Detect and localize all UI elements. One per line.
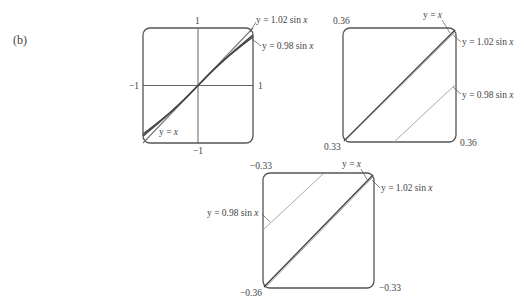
x-min-label: −0.36 <box>240 288 262 298</box>
y-max-label: 0.36 <box>333 16 350 26</box>
y-max-label: 1 <box>195 16 200 26</box>
plot-positive-zoom: 0.36 0.33 0.36 y = x y = 1.02 sin x y = … <box>324 10 514 152</box>
plot-full-range: 1 −1 −1 1 y = 1.02 sin x y = 0.98 sin x … <box>129 15 314 156</box>
figure: 1 −1 −1 1 y = 1.02 sin x y = 0.98 sin x … <box>0 0 524 300</box>
curve-1-02-sinx <box>345 31 456 141</box>
curve-1-02-sinx <box>265 176 374 288</box>
x-min-label: −1 <box>129 81 139 91</box>
line-y-equals-x <box>264 175 373 287</box>
annotation-0-98-sinx: y = 0.98 sin x <box>462 90 514 100</box>
plot-negative-zoom: −0.33 −0.36 −0.33 y = x y = 1.02 sin x y… <box>207 159 433 298</box>
leader-line <box>361 169 368 181</box>
x-max-label: 0.36 <box>460 138 477 148</box>
x-max-label: 1 <box>258 81 263 91</box>
x-min-label: 0.33 <box>324 142 341 152</box>
y-max-label: −0.33 <box>250 161 272 171</box>
annotation-y-equals-x: y = x <box>159 127 179 137</box>
annotation-y-equals-x: y = x <box>423 10 443 20</box>
leader-line <box>372 180 380 188</box>
leader-line <box>250 22 256 32</box>
annotation-0-98-sinx: y = 0.98 sin x <box>262 41 314 51</box>
y-min-label: −1 <box>193 146 203 156</box>
line-y-equals-x <box>344 30 455 141</box>
leader-line <box>453 87 461 94</box>
leader-line <box>442 20 450 33</box>
curve-0-98-sinx <box>394 84 456 142</box>
annotation-1-02-sinx: y = 1.02 sin x <box>381 183 433 193</box>
annotation-0-98-sinx: y = 0.98 sin x <box>207 208 259 218</box>
x-max-label: −0.33 <box>379 283 401 293</box>
annotation-y-equals-x: y = x <box>342 159 362 169</box>
annotation-1-02-sinx: y = 1.02 sin x <box>256 15 308 25</box>
leader-line <box>453 35 461 42</box>
curve-0-98-sinx <box>263 174 323 230</box>
annotation-1-02-sinx: y = 1.02 sin x <box>462 37 514 47</box>
